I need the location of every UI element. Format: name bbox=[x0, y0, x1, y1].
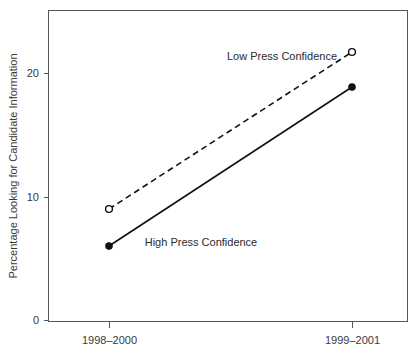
y-tick-label-10: 10 bbox=[27, 191, 39, 203]
line-chart: 0 10 20 Percentage Looking for Candidate… bbox=[0, 0, 420, 358]
data-point-low-press-1999-2001 bbox=[349, 49, 356, 56]
x-tick-label-left: 1998–2000 bbox=[82, 334, 137, 346]
data-point-high-press-1999-2001 bbox=[349, 84, 355, 90]
series-line-low-press bbox=[109, 52, 352, 209]
data-point-high-press-1998-2000 bbox=[106, 243, 112, 249]
x-tick-label-right: 1999–2001 bbox=[325, 334, 380, 346]
annotation-low-press: Low Press Confidence bbox=[227, 50, 337, 62]
y-tick-label-0: 0 bbox=[33, 314, 39, 326]
chart-figure: 0 10 20 Percentage Looking for Candidate… bbox=[0, 0, 420, 358]
y-tick-label-20: 20 bbox=[27, 67, 39, 79]
series-line-high-press bbox=[109, 87, 352, 246]
data-point-low-press-1998-2000 bbox=[106, 206, 113, 213]
y-axis-title: Percentage Looking for Candidate Informa… bbox=[7, 53, 19, 278]
annotation-high-press: High Press Confidence bbox=[145, 236, 258, 248]
